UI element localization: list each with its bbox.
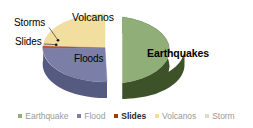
slice-volcanos[interactable] [43,14,105,48]
legend-item-label: Slides [121,111,146,121]
legend-swatch-icon [77,114,81,118]
legend-swatch-icon [155,114,159,118]
legend-item-volcanos[interactable]: Volcanos [155,111,196,121]
legend-item-label: Storm [212,111,234,121]
storms-leader-dot [57,39,60,42]
legend-item-flood[interactable]: Flood [77,111,105,121]
legend-item-label: Flood [84,111,105,121]
legend-swatch-icon [114,114,118,118]
legend-item-slides[interactable]: Slides [114,111,146,121]
legend-item-label: Earthquake [25,111,68,121]
legend-item-label: Volcanos [162,111,196,121]
legend-swatch-icon [18,114,22,118]
legend-swatch-icon [205,114,209,118]
pie-plot-area: Earthquakes Volcanos Floods Storms Slide… [0,0,253,104]
legend-item-storm[interactable]: Storm [205,111,234,121]
pie-svg [0,0,253,104]
slice-earthquakes-group[interactable] [123,17,185,99]
chart-legend: EarthquakeFloodSlidesVolcanosStorm [0,106,253,126]
pie-chart-figure: Earthquakes Volcanos Floods Storms Slide… [0,0,253,128]
legend-item-earthquake[interactable]: Earthquake [18,111,68,121]
slides-leader-dot [55,43,58,46]
